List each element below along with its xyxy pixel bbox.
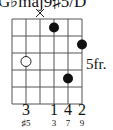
- finger-dot: [49, 23, 59, 33]
- mute-x-icon: [36, 9, 44, 17]
- interval-label: 7: [61, 118, 75, 128]
- fret-position-label: 5fr.: [86, 56, 106, 73]
- finger-label: 1: [47, 101, 61, 119]
- finger-label: 3: [19, 101, 33, 119]
- finger-label: 2: [75, 101, 89, 119]
- interval-label: 9: [75, 118, 89, 128]
- finger-dot: [77, 40, 87, 50]
- interval-label: 3: [47, 118, 61, 128]
- open-dot: [21, 57, 31, 67]
- finger-label: 4: [61, 101, 75, 119]
- finger-dot: [63, 74, 73, 84]
- interval-label: ♯5: [19, 118, 33, 128]
